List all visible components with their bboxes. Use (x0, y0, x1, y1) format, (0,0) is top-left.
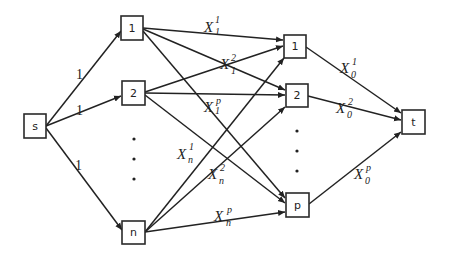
label-x-1-p: X p 1 (203, 95, 221, 116)
svg-text:0: 0 (347, 109, 352, 120)
label-x-n-2: X 2 n (207, 162, 225, 186)
svg-text:2: 2 (231, 52, 236, 63)
svg-text:X: X (207, 166, 218, 182)
svg-text:2: 2 (220, 162, 225, 173)
svg-text:0: 0 (365, 175, 370, 186)
node-right-p: p (286, 193, 309, 217)
svg-text:1: 1 (352, 56, 357, 67)
source-edge-label-n: 1 (75, 158, 82, 173)
node-left-1: 1 (121, 16, 143, 40)
source-edges (46, 31, 122, 230)
edge-r2-to-t (308, 96, 401, 120)
svg-text:X: X (176, 146, 187, 162)
middle-edges (143, 28, 285, 232)
svg-text:1: 1 (215, 105, 220, 116)
node-label: 2 (130, 87, 137, 100)
svg-text:X: X (339, 60, 350, 76)
svg-text:X: X (213, 208, 224, 224)
right-ellipsis-dots (295, 129, 298, 172)
node-right-2: 2 (286, 84, 308, 107)
label-x-0-p: X p 0 (353, 162, 371, 186)
node-label: p (294, 199, 301, 212)
label-x-1-1: X 1 1 (203, 14, 220, 37)
svg-text:1: 1 (215, 26, 220, 37)
edge-l2-to-r2 (145, 93, 285, 95)
flow-network-diagram: s 1 2 n 1 2 p t 1 1 1 X (0, 0, 449, 261)
node-label: n (130, 226, 137, 239)
source-edge-label-1: 1 (76, 67, 83, 82)
source-edge-label-2: 1 (76, 103, 83, 118)
svg-text:p: p (226, 204, 232, 215)
label-x-n-p: X p n (213, 204, 232, 228)
edge-ln-to-r1 (145, 58, 284, 232)
node-label: s (32, 120, 38, 133)
svg-text:1: 1 (189, 141, 194, 152)
node-left-n: n (122, 221, 145, 244)
svg-text:X: X (353, 166, 364, 182)
svg-text:X: X (203, 19, 214, 35)
label-x-n-1: X 1 n (176, 141, 194, 165)
node-label: 1 (129, 22, 136, 35)
edge-s-to-ln (46, 128, 122, 230)
node-label: 2 (294, 89, 301, 102)
svg-text:n: n (219, 175, 224, 186)
svg-text:0: 0 (351, 69, 356, 80)
svg-text:1: 1 (231, 65, 236, 76)
svg-text:X: X (203, 99, 214, 115)
node-t: t (402, 110, 425, 134)
svg-text:X: X (335, 100, 346, 116)
left-ellipsis-dots (132, 137, 135, 180)
node-left-2: 2 (122, 81, 145, 105)
svg-text:2: 2 (348, 96, 353, 107)
node-label: 1 (292, 40, 299, 53)
node-label: t (411, 116, 416, 129)
label-x-0-2: X 2 0 (335, 96, 353, 120)
svg-text:n: n (226, 217, 231, 228)
node-right-1: 1 (284, 35, 306, 58)
svg-text:p: p (365, 162, 371, 173)
svg-text:X: X (219, 56, 230, 72)
node-s: s (24, 114, 46, 138)
label-x-1-2: X 2 1 (219, 52, 236, 76)
svg-text:1: 1 (215, 14, 220, 25)
svg-text:n: n (188, 154, 193, 165)
